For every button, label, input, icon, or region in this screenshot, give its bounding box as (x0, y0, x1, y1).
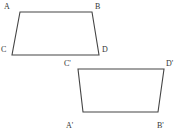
vertex-label-a: A (4, 2, 10, 11)
vertex-label-d-prime: D' (166, 59, 173, 68)
vertex-label-a-prime: A' (66, 121, 73, 130)
vertex-label-d: D (102, 45, 108, 54)
vertex-label-c: C (1, 45, 6, 54)
geometry-diagram (0, 0, 182, 137)
quadrilateral-a-prime-b-prime-c-prime-d-prime (78, 69, 164, 112)
quadrilateral-abcd (12, 12, 99, 55)
vertex-label-b: B (95, 2, 100, 11)
vertex-label-b-prime: B' (157, 121, 164, 130)
vertex-label-c-prime: C' (64, 59, 71, 68)
figure-canvas: A B C D C' D' A' B' (0, 0, 182, 137)
